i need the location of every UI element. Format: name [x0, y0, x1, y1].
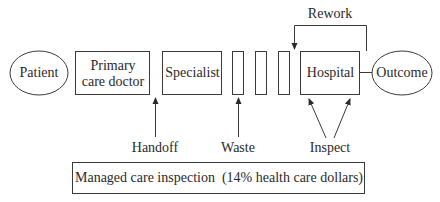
hospital-label: Hospital [301, 65, 360, 80]
handoff-label: Handoff [125, 140, 185, 155]
waste-block-2 [256, 52, 267, 95]
outcome-label: Outcome [372, 65, 432, 80]
waste-block-3 [279, 52, 290, 95]
rework-arrow [295, 26, 367, 52]
patient-label: Patient [10, 65, 68, 80]
inspect-arrow-right [334, 99, 350, 138]
rework-label: Rework [300, 6, 360, 21]
inspect-label: Inspect [300, 140, 360, 155]
specialist-label: Specialist [163, 65, 222, 80]
inspect-arrow-left [309, 99, 326, 138]
managed-care-label: Managed care inspection (14% health care… [73, 170, 365, 185]
primary-care-label-line2: care doctor [76, 74, 150, 89]
waste-label: Waste [208, 140, 268, 155]
primary-care-label-line1: Primary [76, 58, 150, 73]
waste-block-1 [233, 52, 244, 95]
